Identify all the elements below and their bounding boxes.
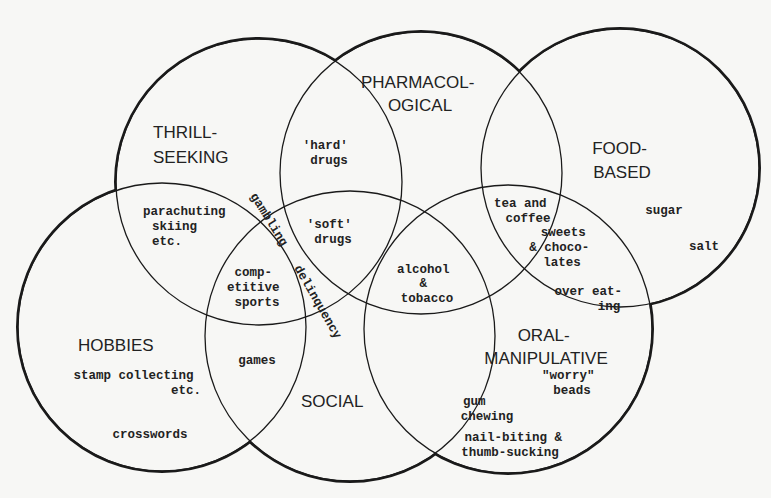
category-food-based: FOOD- BASED xyxy=(592,139,652,182)
item-games: games xyxy=(238,354,276,368)
item-parachuting-skiing: parachuting skiing etc. xyxy=(143,205,233,249)
item-worry-beads: "worry" beads xyxy=(542,369,602,398)
item-competitive-sports: comp- etitive sports xyxy=(227,266,287,310)
category-oral-manipulative: ORAL- MANIPULATIVE xyxy=(484,326,607,368)
item-crosswords: crosswords xyxy=(112,428,187,442)
category-hobbies: HOBBIES xyxy=(78,336,154,355)
category-thrill-seeking: THRILL- SEEKING xyxy=(153,123,229,167)
item-sweets-chocolates: sweets & choco- lates xyxy=(529,226,597,270)
item-salt: salt xyxy=(689,240,719,254)
venn-diagram: THRILL- SEEKING PHARMACOL- OGICAL FOOD- … xyxy=(0,0,771,498)
category-social: SOCIAL xyxy=(301,392,363,411)
item-sugar: sugar xyxy=(645,204,683,218)
item-soft-drugs: 'soft' drugs xyxy=(307,218,360,247)
item-stamp-collecting: stamp collecting etc. xyxy=(73,369,201,398)
item-over-eating: over eat- ing xyxy=(554,285,629,314)
item-gum-chewing: gum chewing xyxy=(461,395,514,424)
item-alcohol-tobacco: alcohol & tobacco xyxy=(397,263,457,306)
item-hard-drugs: 'hard' drugs xyxy=(303,139,356,168)
category-pharmacological: PHARMACOL- OGICAL xyxy=(361,73,479,115)
item-tea-coffee: tea and coffee xyxy=(494,197,554,226)
item-nail-biting-thumb-sucking: nail-biting & thumb-sucking xyxy=(461,431,569,460)
